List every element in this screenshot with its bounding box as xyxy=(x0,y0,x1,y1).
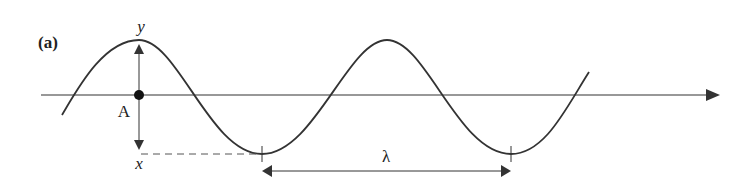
point-a-dot xyxy=(134,90,144,100)
x-label: x xyxy=(134,154,143,173)
axis-arrow-icon xyxy=(706,89,720,101)
wavelength-arrow xyxy=(262,165,511,177)
panel-label: (a) xyxy=(38,33,58,52)
point-a-label: A xyxy=(118,102,131,121)
wave-diagram: (a) y A x λ xyxy=(0,0,753,184)
wavelength-label: λ xyxy=(382,147,391,166)
y-label: y xyxy=(135,17,145,36)
